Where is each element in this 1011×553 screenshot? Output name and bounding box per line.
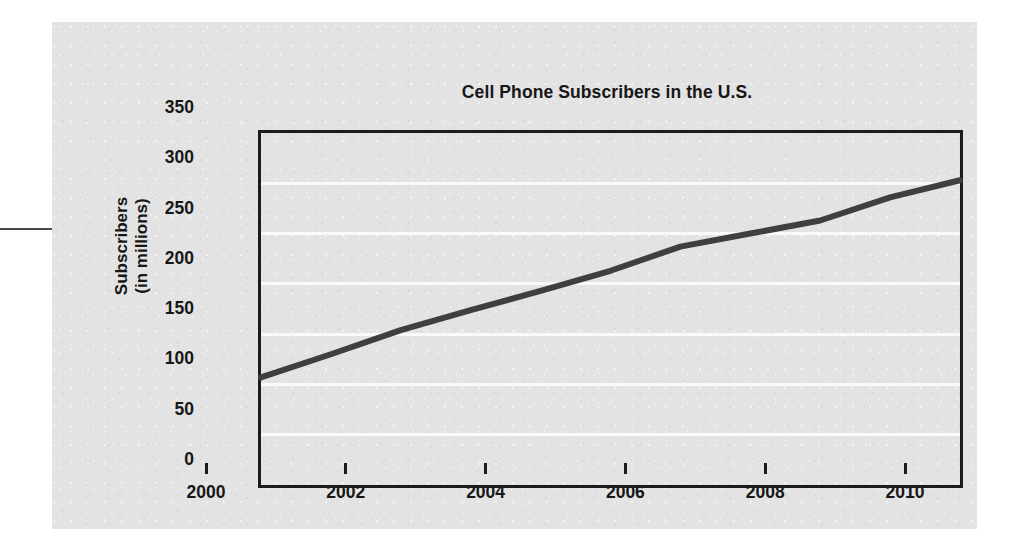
plot-inner [261,133,960,485]
plot-area [258,130,963,488]
x-axis-tick-label: 2000 [161,484,251,502]
y-axis-tick-label: 200 [132,250,194,268]
y-axis-tick-label: 250 [132,200,194,218]
data-series-line [261,133,960,485]
y-axis-tick-label: 0 [132,451,194,469]
x-axis-tick-mark [205,463,208,474]
y-axis-tick-label: 100 [132,350,194,368]
figure-page: Cell Phone Subscribers in the U.S. Subsc… [0,0,1011,553]
page-margin-rule [0,228,54,230]
y-axis-tick-label: 300 [132,149,194,167]
y-axis-tick-label: 150 [132,300,194,318]
figure-panel: Cell Phone Subscribers in the U.S. Subsc… [52,22,977,529]
y-axis-tick-label: 350 [132,99,194,117]
chart-title: Cell Phone Subscribers in the U.S. [257,82,957,103]
y-axis-title-line1: Subscribers [112,197,131,295]
y-axis-tick-label: 50 [132,401,194,419]
